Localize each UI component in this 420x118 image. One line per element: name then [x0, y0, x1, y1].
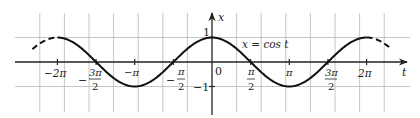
- y-label-minus-1: −1: [193, 81, 209, 94]
- denominator: 2: [248, 81, 254, 92]
- x-label-3pi-over-2: 3π 2: [325, 67, 338, 92]
- denominator: 2: [92, 81, 98, 92]
- x-label-minus-pi-over-2: − π 2: [166, 66, 185, 92]
- axis-label-x: x: [218, 11, 225, 24]
- minus-sign: −: [166, 74, 175, 87]
- denominator: 2: [328, 81, 334, 92]
- curve-dashed-left: [32, 38, 57, 50]
- x-label-minus-pi: −π: [124, 67, 139, 78]
- function-label: x = cos t: [242, 38, 289, 50]
- cosine-graph: x t x = cos t 1 −1 0 −2π −π π 2π − 3π 2 …: [0, 0, 420, 118]
- axis-label-t: t: [402, 66, 407, 79]
- x-label-pi: π: [285, 67, 293, 78]
- x-label-minus-2pi: −2π: [44, 67, 67, 79]
- origin-label: 0: [215, 65, 222, 78]
- minus-sign: −: [78, 74, 87, 87]
- curve-dashed-right: [367, 38, 392, 50]
- numerator: π: [247, 66, 255, 77]
- x-label-2pi: 2π: [357, 67, 373, 79]
- denominator: 2: [178, 81, 184, 92]
- numerator: π: [177, 66, 185, 77]
- axes: [15, 13, 407, 115]
- numerator: 3π: [89, 67, 102, 78]
- x-label-pi-over-2: π 2: [247, 66, 255, 92]
- x-label-minus-3pi-over-2: − 3π 2: [78, 67, 102, 92]
- numerator: 3π: [325, 67, 338, 78]
- y-label-1: 1: [203, 26, 210, 39]
